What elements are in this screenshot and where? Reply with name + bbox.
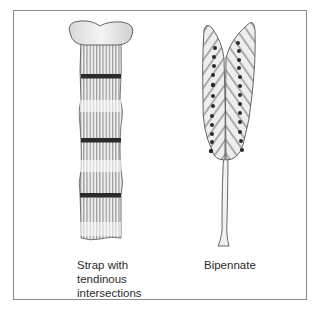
tendinous-band-2 [81,138,121,143]
strap-label-line-3: intersections [77,286,197,300]
bipennate-label: Bipennate [204,258,256,272]
bipennate-muscle [203,22,256,246]
strap-muscle [69,21,133,240]
strap-label-line-2: tendinous [77,272,197,286]
strap-label: Strap with tendinous intersections [77,258,197,300]
tendinous-band-3 [80,193,121,198]
tendinous-band-1 [81,74,121,79]
strap-label-line-1: Strap with [77,258,197,272]
bone-head [69,21,133,45]
pennate-left-half [203,25,226,160]
tendon-stalk [218,150,229,246]
bipennate-label-line-1: Bipennate [204,258,256,272]
